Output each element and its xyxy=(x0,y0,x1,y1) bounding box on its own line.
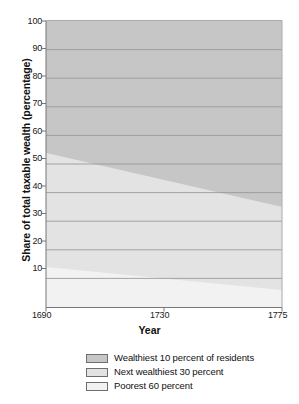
stacked-area-chart-figure: 100 90 80 70 60 50 40 30 20 10 Share of … xyxy=(0,0,299,404)
y-axis-title: Share of total taxable wealth (percentag… xyxy=(20,10,32,310)
chart-legend: Wealthiest 10 percent of residents Next … xyxy=(86,352,291,394)
legend-item-poorest-60: Poorest 60 percent xyxy=(86,380,291,392)
plot-wrapper: 100 90 80 70 60 50 40 30 20 10 Share of … xyxy=(0,0,299,330)
x-axis-title: Year xyxy=(0,324,299,336)
legend-label-poorest-60: Poorest 60 percent xyxy=(114,381,192,391)
legend-item-next-wealthiest-30: Next wealthiest 30 percent xyxy=(86,366,291,378)
legend-item-wealthiest-10: Wealthiest 10 percent of residents xyxy=(86,352,291,364)
legend-label-wealthiest-10: Wealthiest 10 percent of residents xyxy=(114,353,254,363)
plot-area xyxy=(46,21,282,307)
legend-swatch-wealthiest-10 xyxy=(86,354,108,363)
x-tick-label-1690: 1690 xyxy=(32,311,51,320)
legend-swatch-next-wealthiest-30 xyxy=(86,368,108,377)
legend-label-next-wealthiest-30: Next wealthiest 30 percent xyxy=(114,367,223,377)
legend-swatch-poorest-60 xyxy=(86,382,108,391)
x-tick-label-1730: 1730 xyxy=(150,311,169,320)
x-tick-label-1775: 1775 xyxy=(268,311,287,320)
gridlines-group xyxy=(46,21,282,307)
